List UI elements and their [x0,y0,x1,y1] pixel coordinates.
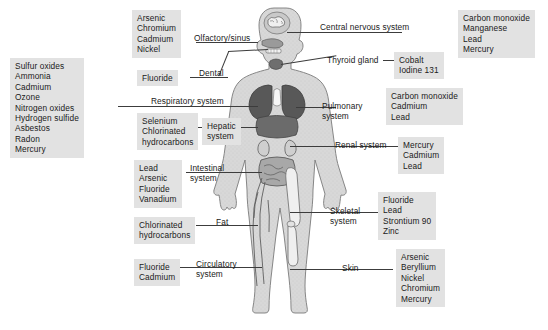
leader-line-dental-to-mouth [228,49,268,52]
agents-box-respiratory: Sulfur oxides Ammonia Cadmium Ozone Nitr… [10,58,84,158]
system-label-thyroid: Thyroid gland [327,55,379,65]
system-label-circulatory: Circulatory system [196,259,237,280]
dental-organ [266,49,281,53]
system-label-skin: Skin [342,263,359,273]
system-label-dental: Dental [199,68,224,78]
system-label-intestinal: Intestinal system [190,163,224,184]
diagram-canvas: Arsenic Chromium Cadmium Nickel Olfactor… [0,0,548,330]
brain-organ [264,12,290,34]
system-label-renal: Renal system [335,140,386,150]
system-label-olfactory: Olfactory/sinus [194,33,250,43]
system-label-hepatic: Hepatic system [202,118,241,145]
agents-box-thyroid: Cobalt Iodine 131 [394,52,444,79]
kidneys-organ [258,140,296,156]
sinus-organ [262,39,283,48]
system-label-fat: Fat [216,217,228,227]
circulatory-vessels [253,178,269,286]
agents-box-hepatic: Selenium Chlorinated hydrocarbons [137,113,198,150]
agents-box-dental: Fluoride [137,70,178,86]
agents-box-pulmonary: Carbon monoxide Cadmium Lead [386,88,463,125]
system-label-respiratory: Respiratory system [151,96,224,106]
agents-box-fat: Chlorinated hydrocarbons [134,217,195,244]
lungs-organ [249,85,305,120]
liver-organ [256,116,298,139]
agents-box-skeletal: Fluoride Lead Strontium 90 Zinc [378,192,436,240]
agents-box-renal: Mercury Cadmium Lead [398,137,444,174]
agents-box-cns: Carbon monoxide Manganese Lead Mercury [458,10,535,58]
system-label-pulmonary: Pulmonary system [322,101,363,122]
system-label-cns: Central nervous system [320,22,409,32]
agents-box-intestinal: Lead Arsenic Fluoride Vanadium [134,160,182,208]
agents-box-skin: Arsenic Beryllium Nickel Chromium Mercur… [396,249,445,307]
intestines-organ [259,157,296,186]
femur-bone [286,168,300,266]
agents-box-circulatory: Fluoride Cadmium [134,259,180,286]
agents-box-olfactory: Arsenic Chromium Cadmium Nickel [132,10,181,58]
system-label-skeletal: Skeletal system [330,206,360,227]
